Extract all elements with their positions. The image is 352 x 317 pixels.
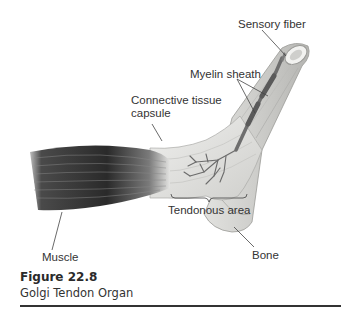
label-connective-tissue-line2: capsule <box>131 107 171 120</box>
label-bone: Bone <box>252 249 279 262</box>
label-connective-tissue-line1: Connective tissue <box>131 94 222 107</box>
label-myelin-sheath: Myelin sheath <box>190 68 261 81</box>
golgi-tendon-organ-figure: Sensory fiber Myelin sheath Connective t… <box>0 0 352 317</box>
label-muscle: Muscle <box>42 251 78 264</box>
label-tendonous-area: Tendonous area <box>168 204 250 217</box>
muscle <box>30 145 170 210</box>
label-sensory-fiber: Sensory fiber <box>238 18 306 31</box>
caption-divider <box>20 305 341 307</box>
figure-caption: Golgi Tendon Organ <box>20 286 133 300</box>
figure-number: Figure 22.8 <box>20 270 97 284</box>
